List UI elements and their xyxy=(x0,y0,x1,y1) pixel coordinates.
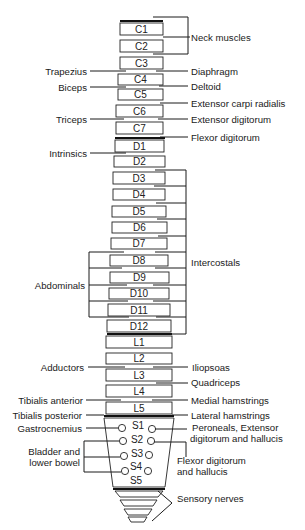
label-bladder-line1: Bladder and xyxy=(28,446,80,457)
nerve-root-left-s2 xyxy=(119,437,126,444)
svg-text:D2: D2 xyxy=(133,156,146,167)
label-deltoid: Deltoid xyxy=(191,81,221,92)
svg-text:D3: D3 xyxy=(133,173,146,184)
vertebra-d3: D3 xyxy=(113,172,165,184)
svg-text:D4: D4 xyxy=(133,189,146,200)
svg-text:S3: S3 xyxy=(131,448,144,459)
svg-text:D8: D8 xyxy=(133,255,146,266)
label-biceps: Biceps xyxy=(58,82,87,93)
label-flexor-dh-line1: Flexor digitorum xyxy=(177,455,246,466)
label-extensor-carpi-radialis: Extensor carpi radialis xyxy=(191,98,286,109)
svg-text:D7: D7 xyxy=(133,238,146,249)
label-abdominals: Abdominals xyxy=(35,280,85,291)
vertebra-c3: C3 xyxy=(120,57,163,69)
vertebra-d9: D9 xyxy=(110,272,169,283)
label-bladder-line2: lower bowel xyxy=(29,457,80,468)
svg-text:C1: C1 xyxy=(135,24,148,35)
label-trapezius: Trapezius xyxy=(45,66,87,77)
svg-text:D9: D9 xyxy=(133,272,146,283)
svg-text:L4: L4 xyxy=(133,386,145,397)
label-flexor-digitorum: Flexor digitorum xyxy=(191,132,260,143)
svg-text:C4: C4 xyxy=(134,74,147,85)
label-quadriceps: Quadriceps xyxy=(191,377,240,388)
label-lateral-hamstrings: Lateral hamstrings xyxy=(191,410,270,421)
label-extensor-digitorum: Extensor digitorum xyxy=(191,114,271,125)
svg-text:D10: D10 xyxy=(130,288,149,299)
label-medial-hamstrings: Medial hamstrings xyxy=(191,395,269,406)
svg-text:D6: D6 xyxy=(133,222,146,233)
nerve-root-right-s1 xyxy=(148,425,155,432)
vertebra-d12: D12 xyxy=(107,320,171,332)
nerve-root-right-s2 xyxy=(147,437,154,444)
vertebra-l5: L5 xyxy=(106,402,172,414)
svg-text:C7: C7 xyxy=(133,123,146,134)
svg-text:C5: C5 xyxy=(134,89,147,100)
vertebra-d6: D6 xyxy=(112,222,167,233)
svg-text:S2: S2 xyxy=(131,434,144,445)
vertebra-c6: C6 xyxy=(116,105,163,117)
vertebra-c7: C7 xyxy=(116,122,163,134)
svg-text:S1: S1 xyxy=(132,420,145,431)
vertebra-d11: D11 xyxy=(108,304,170,316)
vertebra-d4: D4 xyxy=(113,189,165,200)
svg-text:S4: S4 xyxy=(130,461,143,472)
vertebra-l1: L1 xyxy=(106,336,172,348)
label-tibialis-anterior: Tibialis anterior xyxy=(18,395,83,406)
label-gastrocnemius: Gastrocnemius xyxy=(17,423,82,434)
label-neck-muscles: Neck muscles xyxy=(191,32,251,43)
vertebra-c4: C4 xyxy=(118,74,163,85)
svg-text:D1: D1 xyxy=(133,141,146,152)
vertebra-d7: D7 xyxy=(111,238,167,249)
svg-text:C2: C2 xyxy=(135,41,148,52)
svg-text:D12: D12 xyxy=(130,321,149,332)
vertebra-l4: L4 xyxy=(106,385,172,397)
vertebra-d2: D2 xyxy=(114,156,165,167)
vertebra-d10: D10 xyxy=(109,288,169,299)
label-flexor-dh-line2: and hallucis xyxy=(177,466,228,477)
vertebra-c2: C2 xyxy=(120,40,163,52)
label-triceps: Triceps xyxy=(56,114,87,125)
nerve-root-right-s3 xyxy=(145,451,152,458)
vertebra-l3: L3 xyxy=(106,369,172,381)
svg-text:D11: D11 xyxy=(130,305,148,316)
svg-text:C6: C6 xyxy=(133,106,146,117)
label-tibialis-posterior: Tibialis posterior xyxy=(13,410,83,421)
svg-text:D5: D5 xyxy=(133,206,146,217)
nerve-root-left-s1 xyxy=(118,424,125,431)
label-iliopsoas: Iliopsoas xyxy=(192,362,230,373)
svg-text:L2: L2 xyxy=(133,353,145,364)
vertebra-d8: D8 xyxy=(110,255,168,266)
label-intercostals: Intercostals xyxy=(191,257,240,268)
svg-text:L3: L3 xyxy=(133,370,145,381)
svg-text:L1: L1 xyxy=(133,337,145,348)
nerve-root-left-s4 xyxy=(121,467,128,474)
label-peroneals-line1: Peroneals, Extensor xyxy=(192,422,279,433)
label-adductors: Adductors xyxy=(41,362,84,373)
label-sensory-nerves: Sensory nerves xyxy=(177,493,244,504)
label-peroneals-line2: digitorum and hallucis xyxy=(190,433,283,444)
nerve-root-right-s4 xyxy=(144,467,151,474)
vertebra-l2: L2 xyxy=(106,353,172,364)
vertebra-d5: D5 xyxy=(112,206,166,217)
label-intrinsics: Intrinsics xyxy=(49,148,87,159)
svg-text:C3: C3 xyxy=(135,58,148,69)
spinal-innervation-diagram: C1 C2 C3 C4 C5 C6 C7 D1 D2 D3 D4 xyxy=(0,0,305,530)
vertebra-d1: D1 xyxy=(115,140,164,152)
svg-text:S5: S5 xyxy=(130,475,143,486)
vertebra-c5: C5 xyxy=(118,89,163,100)
svg-text:L5: L5 xyxy=(133,403,145,414)
vertebra-c1: C1 xyxy=(120,23,163,35)
nerve-root-left-s3 xyxy=(120,452,127,459)
label-diaphragm: Diaphragm xyxy=(191,66,238,77)
